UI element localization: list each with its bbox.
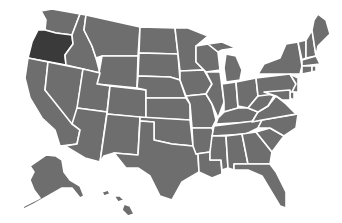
state-rhode-island[interactable] xyxy=(312,66,316,72)
state-florida[interactable] xyxy=(234,164,286,208)
state-new-york[interactable] xyxy=(258,42,302,74)
state-north-dakota[interactable] xyxy=(139,27,178,54)
state-connecticut[interactable] xyxy=(302,66,312,74)
state-maine[interactable] xyxy=(312,14,330,56)
state-alaska[interactable] xyxy=(22,155,84,210)
state-wyoming[interactable] xyxy=(97,56,138,88)
state-colorado[interactable] xyxy=(107,86,146,118)
us-map xyxy=(0,0,342,223)
state-hawaii[interactable] xyxy=(102,190,134,216)
state-kansas[interactable] xyxy=(146,98,190,120)
state-michigan[interactable] xyxy=(224,54,242,82)
us-map-svg xyxy=(0,0,342,223)
